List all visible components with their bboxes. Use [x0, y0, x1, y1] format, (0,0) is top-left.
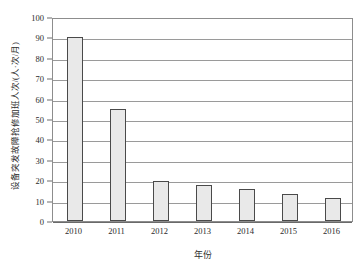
- bar: [110, 109, 126, 221]
- y-axis-tick-labels: 0102030405060708090100: [18, 18, 44, 222]
- x-axis-tick-label: 2016: [323, 226, 340, 236]
- y-axis-tick-label: 30: [36, 156, 45, 166]
- y-axis-tick-label: 100: [31, 13, 44, 23]
- bar: [282, 194, 298, 221]
- bar-chart-figure: 设备突发故障抢修加班人次/(人·次/月) 0102030405060708090…: [0, 0, 363, 276]
- y-axis-tick-label: 80: [36, 54, 45, 64]
- x-axis-tick-label: 2013: [194, 226, 211, 236]
- plot-area: [52, 18, 353, 222]
- x-axis-tick-label: 2010: [65, 226, 82, 236]
- y-axis-tick-label: 70: [36, 74, 45, 84]
- y-axis-tick-label: 10: [36, 197, 45, 207]
- bar: [153, 181, 169, 221]
- y-axis-tick-label: 50: [36, 115, 45, 125]
- bar: [67, 37, 83, 221]
- bar: [196, 185, 212, 221]
- bar: [325, 198, 341, 221]
- x-axis-tick-label: 2012: [151, 226, 168, 236]
- y-axis-tick-label: 20: [36, 176, 45, 186]
- y-axis-tick-label: 60: [36, 95, 45, 105]
- y-axis-tick-label: 40: [36, 135, 45, 145]
- x-axis-tick-labels: 2010201120122013201420152016: [52, 226, 353, 240]
- bar-series: [53, 19, 352, 221]
- y-axis-tick-label: 0: [40, 217, 44, 227]
- y-axis-tick-label: 90: [36, 33, 45, 43]
- x-axis-tick-label: 2011: [108, 226, 125, 236]
- axis-baseline: [53, 222, 352, 223]
- x-axis-tick-label: 2014: [237, 226, 254, 236]
- x-axis-tick-label: 2015: [280, 226, 297, 236]
- bar: [239, 189, 255, 221]
- x-axis-title: 年份: [52, 248, 353, 261]
